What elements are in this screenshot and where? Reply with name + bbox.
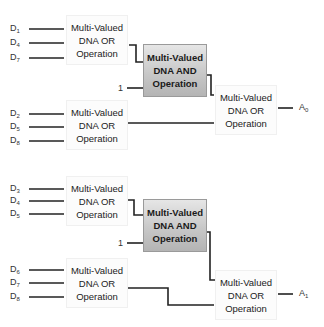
gate-label-line: Multi-Valued — [71, 182, 123, 195]
diagram-canvas: D1 D4 D7 Multi-Valued DNA OR Operation 1… — [0, 0, 324, 327]
gate-label-line: Multi-Valued — [220, 91, 272, 104]
constant-input-label: 1 — [118, 238, 123, 248]
gate-label-line: Operation — [76, 290, 118, 303]
gate-label-line: DNA OR — [79, 34, 115, 47]
gate-label-line: Operation — [76, 47, 118, 60]
input-label: D7 — [10, 52, 20, 65]
or-gate: Multi-Valued DNA OR Operation — [66, 100, 128, 150]
gate-label-line: Operation — [225, 117, 267, 130]
or-gate: Multi-Valued DNA OR Operation — [66, 15, 128, 65]
gate-label-line: Operation — [76, 208, 118, 221]
wire-and-to-or — [207, 75, 214, 95]
or-gate: Multi-Valued DNA OR Operation — [66, 176, 128, 226]
or-gate: Multi-Valued DNA OR Operation — [66, 258, 128, 308]
gate-label-line: DNA AND — [153, 219, 196, 232]
gate-label-line: DNA OR — [228, 104, 264, 117]
gate-label-line: Operation — [153, 77, 198, 90]
gate-label-line: Operation — [76, 132, 118, 145]
gate-label-line: DNA OR — [79, 195, 115, 208]
input-label: D5 — [10, 121, 20, 134]
output-label: A0 — [299, 102, 308, 115]
wire-or-to-or — [126, 288, 214, 305]
input-label: D4 — [10, 37, 20, 50]
gate-label-line: DNA OR — [79, 277, 115, 290]
gate-label-line: Multi-Valued — [147, 206, 203, 219]
wire-or-to-and — [129, 45, 143, 62]
gate-label-line: Multi-Valued — [71, 106, 123, 119]
wire-or-to-and — [128, 200, 143, 215]
input-label: D7 — [10, 277, 20, 290]
gate-label-line: DNA OR — [79, 119, 115, 132]
final-or-gate: Multi-Valued DNA OR Operation — [215, 270, 277, 320]
and-gate: Multi-Valued DNA AND Operation — [143, 199, 207, 252]
gate-label-line: Multi-Valued — [71, 21, 123, 34]
gate-label-line: Operation — [153, 232, 198, 245]
output-label: A1 — [299, 288, 308, 301]
gate-label-line: DNA OR — [228, 289, 264, 302]
input-label: D8 — [10, 135, 20, 148]
gate-label-line: Operation — [225, 302, 267, 315]
input-label: D2 — [10, 108, 20, 121]
input-label: D5 — [10, 208, 20, 221]
input-label: D4 — [10, 195, 20, 208]
gate-label-line: Multi-Valued — [71, 264, 123, 277]
final-or-gate: Multi-Valued DNA OR Operation — [215, 85, 277, 135]
gate-label-line: Multi-Valued — [220, 276, 272, 289]
gate-label-line: Multi-Valued — [147, 51, 203, 64]
input-label: D1 — [10, 23, 20, 36]
gate-label-line: DNA AND — [153, 64, 196, 77]
constant-input-label: 1 — [118, 83, 123, 93]
input-label: D6 — [10, 264, 20, 277]
input-label: D8 — [10, 291, 20, 304]
and-gate: Multi-Valued DNA AND Operation — [143, 44, 207, 97]
